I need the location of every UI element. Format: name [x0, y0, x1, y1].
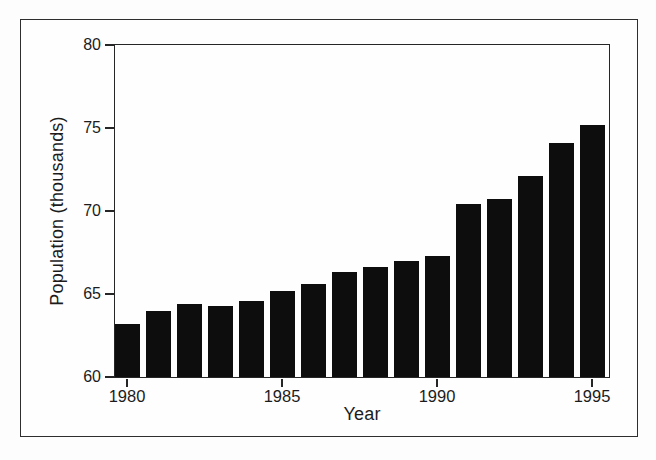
- x-tick-mark-1990: [436, 379, 438, 387]
- y-tick-mark-60: [105, 376, 114, 378]
- y-tick-label-70: 70: [63, 203, 101, 219]
- bar-1991: [456, 204, 481, 377]
- y-axis-label: Population (thousands): [47, 116, 68, 306]
- bar-1984: [239, 301, 264, 377]
- bar-1990: [425, 256, 450, 377]
- y-tick-mark-80: [105, 44, 114, 46]
- x-tick-mark-1995: [591, 379, 593, 387]
- y-tick-mark-65: [105, 293, 114, 295]
- bar-1986: [301, 284, 326, 377]
- bar-1988: [363, 267, 388, 377]
- x-tick-mark-1980: [126, 379, 128, 387]
- y-tick-label-75: 75: [63, 120, 101, 136]
- bar-1995: [580, 125, 605, 377]
- x-tick-mark-1985: [281, 379, 283, 387]
- bar-1985: [270, 291, 295, 377]
- bar-1992: [487, 199, 512, 377]
- y-tick-mark-70: [105, 210, 114, 212]
- bar-1989: [394, 261, 419, 377]
- x-tick-label-1980: 1980: [95, 388, 159, 405]
- bar-1980: [115, 324, 140, 377]
- bar-1993: [518, 176, 543, 377]
- y-tick-mark-75: [105, 127, 114, 129]
- y-tick-label-65: 65: [63, 286, 101, 302]
- bar-1987: [332, 272, 357, 377]
- y-tick-label-60: 60: [63, 369, 101, 385]
- plot-area: 80757065601980198519901995: [114, 44, 610, 378]
- y-tick-label-80: 80: [63, 37, 101, 53]
- x-tick-label-1995: 1995: [560, 388, 624, 405]
- x-tick-label-1985: 1985: [250, 388, 314, 405]
- bar-1994: [549, 143, 574, 377]
- x-tick-label-1990: 1990: [405, 388, 469, 405]
- x-axis-label: Year: [343, 404, 380, 425]
- bar-1983: [208, 306, 233, 377]
- bar-1981: [146, 311, 171, 377]
- bar-1982: [177, 304, 202, 377]
